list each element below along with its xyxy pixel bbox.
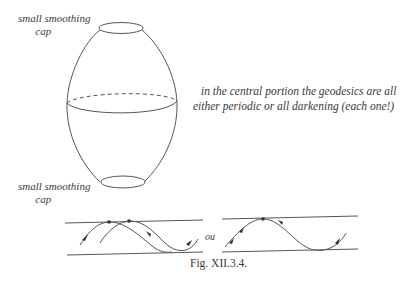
left-geodesic-2: [100, 221, 198, 251]
bottom-cap-label: small smoothing cap: [18, 180, 90, 206]
central-note-line2: either periodic or all darkening (each o…: [193, 99, 396, 114]
arrow-icon: [82, 234, 88, 241]
left-marked-point-1: [107, 220, 111, 224]
top-cap-label: small smoothing cap: [18, 12, 90, 38]
figure-caption: Fig. XII.3.4.: [190, 257, 247, 269]
equator-front: [67, 101, 177, 113]
central-note-line1: in the central portion the geodesics are…: [193, 84, 396, 99]
right-strip-top-line: [222, 216, 358, 219]
left-geodesic-1: [80, 222, 172, 252]
bottom-cap-ellipse: [101, 176, 145, 188]
bottom-cap-label-line2: cap: [18, 193, 90, 206]
right-marked-point: [261, 217, 265, 221]
top-cap-ellipse: [99, 23, 143, 34]
right-strip-bottom-line: [222, 249, 358, 252]
top-cap-label-line1: small smoothing: [18, 12, 90, 25]
arrow-icon: [186, 240, 192, 246]
left-marked-point-2: [127, 219, 131, 223]
arrow-icon: [239, 227, 244, 233]
central-portion-note: in the central portion the geodesics are…: [193, 84, 396, 114]
figure-drawing: [0, 0, 402, 285]
left-strip-bottom-line: [67, 252, 203, 255]
top-cap-label-line2: cap: [18, 25, 90, 38]
right-geodesic: [225, 219, 346, 250]
bottom-cap-label-line1: small smoothing: [18, 180, 90, 193]
equator-back-dashed: [67, 94, 177, 103]
arrow-icon: [146, 231, 151, 237]
connector-ou: ou: [205, 231, 215, 242]
